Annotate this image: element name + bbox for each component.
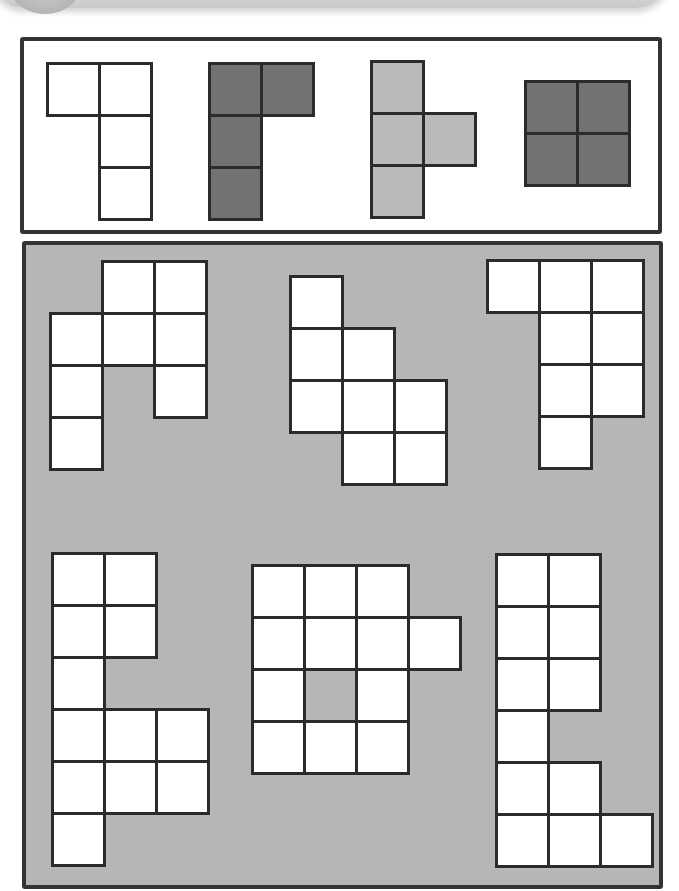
- piece-cell: [98, 114, 153, 169]
- piece-cell: [524, 80, 579, 135]
- shape-cell: [289, 275, 344, 330]
- shape-cell: [303, 564, 358, 619]
- shape-cell: [153, 260, 208, 315]
- shape-cell: [355, 564, 410, 619]
- shape-cell: [303, 616, 358, 671]
- shape-cell: [547, 605, 602, 660]
- shape-cell: [407, 616, 462, 671]
- shape-cell: [251, 668, 306, 723]
- shape-cell: [538, 311, 593, 366]
- shape-cell: [251, 720, 306, 775]
- shape-cell: [303, 720, 358, 775]
- shape-cell: [393, 379, 448, 434]
- piece-cell: [98, 62, 153, 117]
- piece-cell: [370, 112, 425, 167]
- shape-cell: [51, 656, 106, 711]
- piece-cell: [46, 62, 101, 117]
- shape-cell: [355, 616, 410, 671]
- shape-cell: [590, 311, 645, 366]
- shape-cell: [538, 415, 593, 470]
- shape-cell: [153, 312, 208, 367]
- shape-cell: [495, 813, 550, 868]
- shape-cell: [341, 431, 396, 486]
- shape-cell: [49, 364, 104, 419]
- shape-cell: [495, 761, 550, 816]
- shape-cell: [251, 564, 306, 619]
- page-top-edge-shadow: [0, 0, 670, 8]
- piece-cell: [208, 114, 263, 169]
- shape-cell: [49, 416, 104, 471]
- shape-cell: [599, 813, 654, 868]
- shape-cell: [393, 431, 448, 486]
- shape-cell: [495, 553, 550, 608]
- shape-cell: [341, 327, 396, 382]
- shape-cell: [590, 363, 645, 418]
- shape-cell: [251, 616, 306, 671]
- shape-cell: [590, 259, 645, 314]
- shape-cell: [547, 761, 602, 816]
- shape-cell: [289, 379, 344, 434]
- piece-cell: [260, 62, 315, 117]
- piece-cell: [524, 132, 579, 187]
- piece-cell: [576, 80, 631, 135]
- piece-cell: [208, 166, 263, 221]
- shape-cell: [355, 668, 410, 723]
- piece-cell: [370, 60, 425, 115]
- shape-cell: [51, 760, 106, 815]
- shape-cell: [341, 379, 396, 434]
- shape-cell: [101, 260, 156, 315]
- piece-cell: [576, 132, 631, 187]
- shape-cell: [495, 709, 550, 764]
- shape-cell: [547, 553, 602, 608]
- shape-cell: [101, 312, 156, 367]
- shape-cell: [538, 259, 593, 314]
- shape-cell: [538, 363, 593, 418]
- piece-cell: [370, 164, 425, 219]
- shape-cell: [103, 760, 158, 815]
- shape-cell: [103, 708, 158, 763]
- shape-cell: [51, 812, 106, 867]
- shape-cell: [51, 708, 106, 763]
- shape-cell: [486, 259, 541, 314]
- shape-cell: [355, 720, 410, 775]
- shape-cell: [103, 552, 158, 607]
- shape-cell: [547, 813, 602, 868]
- shape-cell: [51, 604, 106, 659]
- shape-cell: [547, 657, 602, 712]
- piece-cell: [98, 166, 153, 221]
- piece-cell: [422, 112, 477, 167]
- shape-cell: [289, 327, 344, 382]
- shape-cell: [49, 312, 104, 367]
- shape-cell: [155, 708, 210, 763]
- shape-cell: [495, 605, 550, 660]
- shape-cell: [51, 552, 106, 607]
- shape-cell: [153, 364, 208, 419]
- piece-cell: [208, 62, 263, 117]
- shape-cell: [495, 657, 550, 712]
- shape-cell: [103, 604, 158, 659]
- shape-cell: [155, 760, 210, 815]
